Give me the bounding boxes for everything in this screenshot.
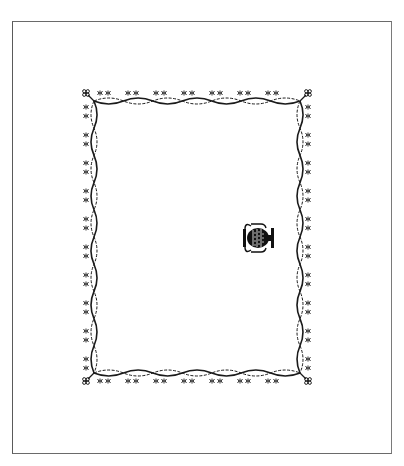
floral-knot-icon: [84, 254, 89, 259]
floral-knot-icon: [210, 379, 215, 384]
floral-knot-icon: [98, 379, 103, 384]
floral-knot-icon: [84, 245, 89, 250]
floral-knot-icon: [246, 379, 251, 384]
floral-knot-icon: [210, 91, 215, 96]
floral-knot-icon: [306, 282, 311, 287]
floral-knot-icon: [306, 105, 311, 110]
vase-icon: [241, 220, 278, 256]
floral-knot-icon: [306, 226, 311, 231]
floral-knot-icon: [306, 170, 311, 175]
floral-knot-icon: [306, 366, 311, 371]
floral-knot-icon: [266, 91, 271, 96]
floral-knot-icon: [274, 91, 279, 96]
floral-knot-icon: [84, 273, 89, 278]
floral-knot-icon: [84, 366, 89, 371]
floral-knot-icon: [306, 301, 311, 306]
floral-knot-icon: [84, 226, 89, 231]
floral-knot-icon: [238, 91, 243, 96]
floral-knot-icon: [98, 91, 103, 96]
floral-knot-icon: [306, 338, 311, 343]
floral-knot-icon: [84, 338, 89, 343]
floral-knot-icon: [84, 198, 89, 203]
floral-knot-icon: [154, 379, 159, 384]
floral-knot-icon: [84, 142, 89, 147]
floral-knot-icon: [84, 217, 89, 222]
floral-knot-icon: [162, 91, 167, 96]
floral-knot-icon: [84, 329, 89, 334]
ornamental-border-frame: [0, 0, 404, 466]
floral-knot-icon: [182, 379, 187, 384]
floral-knot-icon: [306, 329, 311, 334]
floral-knot-icon: [306, 161, 311, 166]
floral-knot-icon: [84, 301, 89, 306]
floral-knot-icon: [306, 245, 311, 250]
floral-knot-icon: [246, 91, 251, 96]
floral-knot-icon: [84, 310, 89, 315]
floral-knot-icon: [306, 254, 311, 259]
floral-knot-icon: [126, 379, 131, 384]
floral-knot-icon: [306, 114, 311, 119]
floral-knot-icon: [306, 273, 311, 278]
floral-knot-icon: [162, 379, 167, 384]
floral-knot-icon: [306, 217, 311, 222]
floral-knot-icon: [84, 114, 89, 119]
floral-knot-icon: [306, 357, 311, 362]
floral-knot-icon: [106, 91, 111, 96]
floral-knot-icon: [182, 91, 187, 96]
floral-knot-icon: [106, 379, 111, 384]
floral-knot-icon: [306, 133, 311, 138]
floral-knot-icon: [84, 170, 89, 175]
floral-knot-icon: [84, 282, 89, 287]
floral-knot-icon: [154, 91, 159, 96]
floral-knot-icon: [84, 357, 89, 362]
floral-knot-icon: [84, 133, 89, 138]
floral-knot-icon: [84, 161, 89, 166]
floral-knot-icon: [306, 198, 311, 203]
floral-knot-icon: [266, 379, 271, 384]
floral-knot-icon: [218, 91, 223, 96]
floral-knot-icon: [306, 189, 311, 194]
floral-knot-icon: [126, 91, 131, 96]
floral-knot-icon: [134, 91, 139, 96]
floral-knot-icon: [218, 379, 223, 384]
floral-knot-icon: [134, 379, 139, 384]
floral-knot-icon: [306, 142, 311, 147]
floral-knot-icon: [274, 379, 279, 384]
floral-knot-icon: [238, 379, 243, 384]
floral-knot-icon: [306, 310, 311, 315]
floral-knot-icon: [84, 105, 89, 110]
floral-knot-icon: [190, 91, 195, 96]
floral-knot-icon: [84, 189, 89, 194]
floral-knot-icon: [190, 379, 195, 384]
